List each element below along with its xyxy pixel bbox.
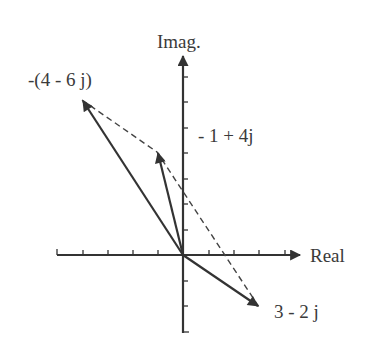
vector-neg1-plus-4j <box>158 153 183 255</box>
vector-label-neg-4-minus-6j: -(4 - 6 j) <box>28 69 92 91</box>
imag-axis <box>183 56 189 333</box>
real-axis-label: Real <box>310 245 345 266</box>
vector-label-neg1-plus-4j: - 1 + 4j <box>198 125 254 146</box>
imag-axis-label: Imag. <box>157 31 201 52</box>
vector-3-minus-2j <box>183 255 258 306</box>
complex-plane-diagram: Imag. Real -(4 - 6 j) - 1 + 4j 3 - 2 j <box>0 0 382 361</box>
vector-neg-4-minus-6j <box>83 101 183 255</box>
vector-label-3-minus-2j: 3 - 2 j <box>274 301 319 322</box>
